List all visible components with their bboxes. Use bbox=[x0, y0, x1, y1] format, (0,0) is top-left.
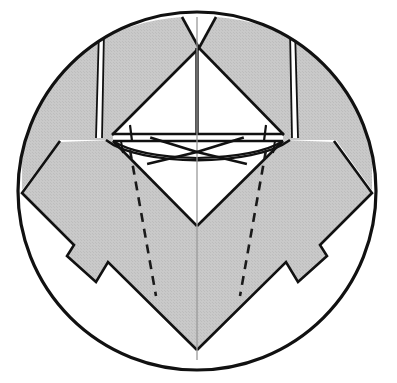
figure-canvas bbox=[0, 0, 397, 383]
folding-diagram-svg bbox=[0, 0, 397, 383]
